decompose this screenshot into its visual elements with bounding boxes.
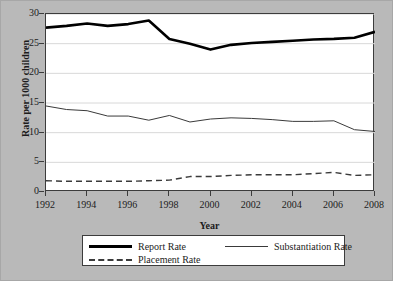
x-tick-mark bbox=[45, 191, 46, 196]
x-tick-label: 1994 bbox=[66, 200, 106, 210]
x-tick-label: 2006 bbox=[313, 200, 353, 210]
chart-figure: 051015202530 Rate per 1000 children 1992… bbox=[0, 0, 393, 281]
legend-swatch-placement-rate bbox=[89, 255, 132, 265]
legend-item-report-rate: Report Rate bbox=[89, 240, 186, 253]
legend-item-placement-rate: Placement Rate bbox=[89, 253, 200, 266]
x-tick-mark bbox=[86, 191, 87, 196]
x-tick-label: 1992 bbox=[25, 200, 65, 210]
x-tick-label: 2004 bbox=[272, 200, 312, 210]
legend-swatch-substantiation-rate bbox=[225, 242, 268, 252]
x-tick-label: 2000 bbox=[190, 200, 230, 210]
x-tick-label: 2002 bbox=[231, 200, 271, 210]
legend-item-substantiation-rate: Substantiation Rate bbox=[225, 240, 352, 253]
x-tick-mark bbox=[292, 191, 293, 196]
x-tick-label: 1996 bbox=[107, 200, 147, 210]
chart-legend: Report Rate Substantiation Rate Placemen… bbox=[82, 235, 345, 266]
x-tick-label: 2008 bbox=[354, 200, 393, 210]
x-tick-mark bbox=[127, 191, 128, 196]
x-tick-mark bbox=[374, 191, 375, 196]
x-tick-mark bbox=[210, 191, 211, 196]
legend-label-placement-rate: Placement Rate bbox=[138, 254, 200, 265]
legend-label-report-rate: Report Rate bbox=[138, 241, 186, 252]
legend-swatch-report-rate bbox=[89, 242, 132, 252]
x-tick-mark bbox=[251, 191, 252, 196]
x-axis-label: Year bbox=[45, 220, 374, 231]
x-tick-mark bbox=[168, 191, 169, 196]
x-tick-label: 1998 bbox=[148, 200, 188, 210]
x-tick-mark bbox=[333, 191, 334, 196]
legend-label-substantiation-rate: Substantiation Rate bbox=[274, 241, 352, 252]
